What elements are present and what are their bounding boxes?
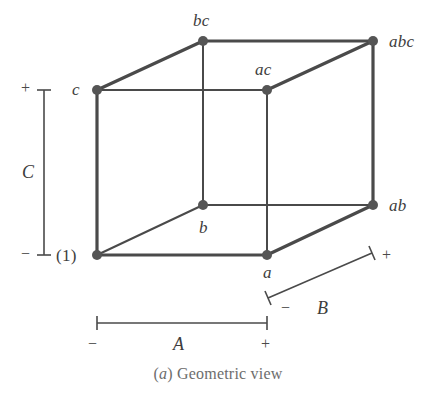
vertex-label-a: a (263, 264, 272, 281)
cube-edge (97, 205, 203, 255)
vertex-label-ab: ab (389, 197, 407, 214)
vertex-label-abc: abc (389, 33, 414, 50)
axis-label-c: C (22, 163, 34, 181)
vertex-dot-ac (262, 85, 272, 95)
cube-vertices (92, 36, 378, 260)
axis-label-a: A (173, 335, 184, 353)
cube-edge (267, 205, 373, 255)
axis-a-minus-sign: − (88, 336, 97, 352)
cube-edge (97, 41, 203, 90)
vertex-label-one: (1) (56, 247, 77, 264)
vertex-dot-one (92, 250, 102, 260)
cube-edges (97, 41, 373, 255)
figure-caption: (a) Geometric view (0, 365, 436, 383)
axis-a-plus-sign: + (261, 336, 270, 352)
caption-suffix: ) Geometric view (167, 365, 282, 382)
axis-b-minus-sign: − (281, 300, 290, 316)
vertex-dot-b (198, 200, 208, 210)
axis-b-plus-sign: + (382, 247, 391, 263)
axis-rules (37, 90, 375, 330)
vertex-dot-ab (368, 200, 378, 210)
axis-b-tick1 (265, 291, 271, 305)
vertex-label-b: b (199, 219, 208, 236)
vertex-dot-a (262, 250, 272, 260)
cube-edge (267, 41, 373, 90)
vertex-dot-bc (198, 36, 208, 46)
vertex-label-c: c (72, 81, 80, 98)
vertex-dot-abc (368, 36, 378, 46)
cube-diagram (0, 0, 436, 398)
axis-c-plus-sign: + (21, 80, 30, 96)
vertex-dot-c (92, 85, 102, 95)
axis-c-minus-sign: − (21, 246, 30, 262)
geometric-view-figure: (1)ababcacbcabcC+−A+−B+− (a) Geometric v… (0, 0, 436, 398)
vertex-label-ac: ac (255, 61, 272, 78)
axis-label-b: B (317, 299, 328, 317)
axis-b-tick2 (369, 246, 375, 260)
vertex-label-bc: bc (193, 12, 210, 29)
axis-b-line (268, 253, 372, 298)
